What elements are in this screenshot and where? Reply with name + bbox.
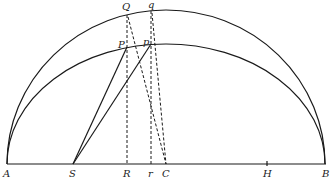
label-S: S — [69, 168, 76, 179]
dashed-qC — [152, 13, 166, 164]
label-B: B — [321, 168, 329, 179]
inner-semiellipse — [7, 44, 325, 164]
label-C: C — [162, 168, 170, 179]
label-q: q — [148, 0, 154, 10]
label-P: P — [117, 39, 125, 50]
label-R: R — [122, 168, 131, 179]
label-r: r — [148, 168, 154, 179]
label-Q: Q — [122, 1, 130, 12]
line-SP — [73, 47, 127, 164]
label-H: H — [262, 168, 272, 179]
outer-semicircle — [7, 10, 325, 164]
label-p: p — [143, 36, 150, 47]
label-A: A — [2, 168, 10, 179]
geometric-diagram: A S R r C H B Q q P p — [0, 0, 335, 189]
